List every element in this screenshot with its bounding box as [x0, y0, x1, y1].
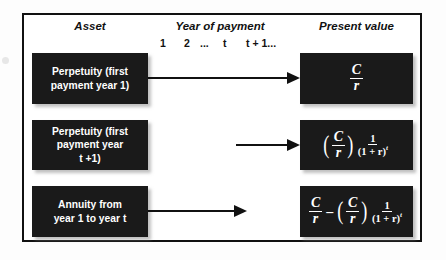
long-arrow-right-icon	[148, 72, 300, 84]
numerator: 1	[368, 133, 377, 145]
column-header-year-of-payment: Year of payment	[150, 20, 290, 32]
column-header-asset: Asset	[32, 20, 148, 32]
asset-box-perpetuity-year-t-plus-1: Perpetuity (first payment year t +1)	[32, 120, 148, 170]
numerator: C	[309, 196, 322, 212]
asset-line: Annuity from	[54, 198, 127, 211]
year-tick-1: 1	[160, 37, 166, 49]
one-plus-r: (1 + r)	[372, 212, 400, 223]
right-paren: )	[347, 135, 353, 156]
denominator: r	[352, 79, 361, 94]
column-header-present-value: Present value	[300, 20, 413, 32]
arrow-head	[234, 205, 247, 217]
present-value-box-perpetuity-year-t-plus-1: ( C r ) 1 (1 + r)t	[300, 120, 413, 170]
discount-fraction: 1 (1 + r)t	[370, 200, 404, 224]
asset-box-text: Perpetuity (first payment year 1)	[51, 65, 129, 91]
asset-box-perpetuity-year-1: Perpetuity (first payment year 1)	[32, 53, 148, 104]
year-tick-t-plus-1: t + 1...	[246, 37, 276, 49]
denominator: r	[348, 212, 357, 227]
asset-line: payment year	[52, 138, 128, 151]
left-paren: (	[323, 135, 329, 156]
discount-fraction: 1 (1 + r)t	[356, 133, 390, 157]
numerator: C	[346, 196, 359, 212]
present-value-box-annuity: C r – ( C r ) 1 (1 + r)t	[300, 186, 413, 237]
asset-line: Perpetuity (first	[51, 65, 129, 78]
asset-line: year 1 to year t	[54, 212, 127, 225]
asset-box-annuity: Annuity from year 1 to year t	[32, 186, 148, 237]
medium-arrow-right-icon	[148, 205, 247, 217]
arrow-shaft	[148, 77, 288, 79]
asset-line: payment year 1)	[51, 79, 129, 92]
scan-edge-artifact	[2, 57, 9, 64]
year-tick-t: t	[223, 37, 227, 49]
numerator: C	[350, 63, 363, 79]
numerator: C	[332, 130, 345, 146]
formula-annuity: C r – ( C r ) 1 (1 + r)t	[308, 196, 405, 226]
year-tick-row: 1 2 ... t t + 1...	[150, 37, 290, 51]
arrow-head	[287, 139, 300, 151]
right-paren: )	[362, 201, 368, 222]
left-paren: (	[338, 201, 344, 222]
formula-c-over-r: C r	[349, 63, 364, 93]
fraction: C r	[346, 196, 359, 226]
denominator: r	[311, 212, 320, 227]
asset-line: t +1)	[52, 152, 128, 165]
minus-sign: –	[323, 204, 336, 220]
short-arrow-right-icon	[236, 139, 300, 151]
denominator: (1 + r)t	[370, 212, 404, 224]
exponent-t: t	[386, 144, 388, 152]
year-tick-ellipsis: ...	[200, 37, 209, 49]
fraction: C r	[350, 63, 363, 93]
arrow-shaft	[236, 144, 288, 146]
asset-line: Perpetuity (first	[52, 125, 128, 138]
asset-box-text: Annuity from year 1 to year t	[54, 198, 127, 224]
one-plus-r: (1 + r)	[358, 146, 386, 157]
arrow-head	[287, 72, 300, 84]
arrow-shaft	[148, 210, 235, 212]
asset-box-text: Perpetuity (first payment year t +1)	[52, 125, 128, 165]
formula-c-over-r-discounted: ( C r ) 1 (1 + r)t	[322, 130, 391, 160]
denominator: r	[334, 146, 343, 161]
exponent-t: t	[400, 211, 402, 219]
year-tick-2: 2	[184, 37, 190, 49]
fraction: C r	[309, 196, 322, 226]
figure-container: Asset Year of payment Present value 1 2 …	[0, 0, 446, 260]
present-value-box-perpetuity-year-1: C r	[300, 53, 413, 104]
denominator: (1 + r)t	[356, 145, 390, 157]
fraction: C r	[332, 130, 345, 160]
numerator: 1	[382, 200, 391, 212]
